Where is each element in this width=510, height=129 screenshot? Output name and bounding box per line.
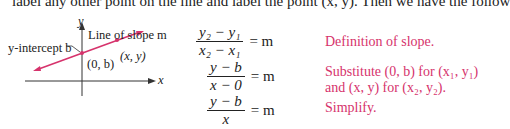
- equals-m: = m: [249, 33, 273, 50]
- fraction: y₂ − y₁ x₂ − x₁: [196, 24, 243, 59]
- numerator: y − b: [207, 93, 245, 111]
- denominator: x: [220, 111, 233, 128]
- intercept-point: [80, 51, 84, 55]
- intercept-point-label: (0, b): [87, 57, 114, 72]
- x-axis-label: x: [158, 73, 164, 88]
- note-simplify: Simplify.: [325, 100, 377, 116]
- numerator: y₂ − y₁: [196, 24, 243, 42]
- equals-m: = m: [251, 102, 275, 119]
- fraction: y − b x: [207, 93, 245, 128]
- note-substitute-line2: and (x, y) for (x₂, y₂).: [325, 80, 446, 96]
- x-axis-arrow-icon: [148, 78, 156, 84]
- denominator: x − 0: [207, 77, 245, 94]
- y-axis-label: y: [78, 14, 84, 29]
- line-arrow-left-icon: [33, 66, 41, 71]
- note-definition: Definition of slope.: [325, 34, 434, 50]
- note-substitute-line1: Substitute (0, b) for (x₁, y₁): [325, 64, 478, 80]
- equals-m: = m: [251, 68, 275, 85]
- equation-definition: y₂ − y₁ x₂ − x₁ = m: [196, 24, 273, 59]
- equation-substitute: y − b x − 0 = m: [207, 59, 275, 94]
- equation-simplify: y − b x = m: [207, 93, 275, 128]
- denominator: x₂ − x₁: [196, 42, 243, 59]
- intercept-label: y-intercept b: [8, 41, 72, 56]
- line-label: Line of slope m: [88, 28, 167, 43]
- numerator: y − b: [207, 59, 245, 77]
- fraction: y − b x − 0: [207, 59, 245, 94]
- general-point-label: (x, y): [120, 49, 146, 64]
